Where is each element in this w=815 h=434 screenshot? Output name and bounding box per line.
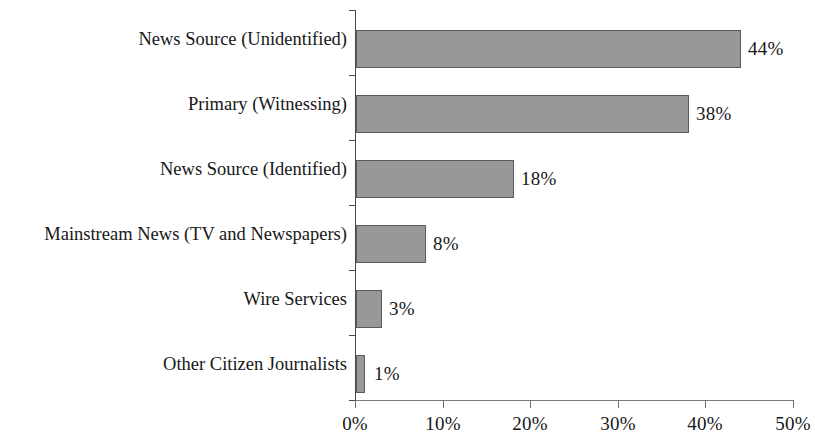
value-tick-20: [530, 400, 531, 408]
bar-band-1: 38%: [355, 95, 793, 133]
x-axis-tick-label-5: 50%: [775, 413, 810, 434]
bar-0[interactable]: [356, 30, 741, 68]
category-label-0: News Source (Unidentified): [138, 29, 347, 50]
bar-value-label-0: 44%: [748, 38, 783, 60]
bar-value-label-3: 8%: [433, 233, 459, 255]
category-label-5: Other Citizen Journalists: [163, 354, 347, 375]
x-axis-tick-label-1: 10%: [425, 413, 460, 434]
x-axis-tick-label-3: 30%: [600, 413, 635, 434]
bar-value-label-2: 18%: [521, 168, 556, 190]
value-tick-10: [443, 400, 444, 408]
bar-band-4: 3%: [355, 290, 793, 328]
category-axis-line: [355, 400, 794, 401]
category-label-1: Primary (Witnessing): [188, 94, 347, 115]
x-axis-tick-label-2: 20%: [512, 413, 547, 434]
x-axis-tick-label-0: 0%: [342, 413, 368, 434]
value-tick-40: [705, 400, 706, 408]
category-label-3: Mainstream News (TV and Newspapers): [44, 224, 347, 245]
category-tick-top: [349, 10, 356, 11]
value-tick-0: [355, 400, 356, 408]
value-tick-50: [793, 400, 794, 408]
bar-band-0: 44%: [355, 30, 793, 68]
bar-1[interactable]: [356, 95, 689, 133]
bar-chart: News Source (Unidentified) Primary (Witn…: [0, 0, 815, 434]
bar-2[interactable]: [356, 160, 514, 198]
category-tick-5: [349, 335, 356, 336]
category-label-4: Wire Services: [243, 289, 347, 310]
category-label-2: News Source (Identified): [160, 159, 347, 180]
bar-band-5: 1%: [355, 355, 793, 393]
category-tick-2: [349, 140, 356, 141]
category-tick-3: [349, 205, 356, 206]
bar-value-label-5: 1%: [374, 363, 400, 385]
bar-5[interactable]: [356, 355, 365, 393]
bar-band-3: 8%: [355, 225, 793, 263]
bar-band-2: 18%: [355, 160, 793, 198]
bar-value-label-1: 38%: [696, 103, 731, 125]
category-tick-1: [349, 75, 356, 76]
bar-3[interactable]: [356, 225, 426, 263]
plot-area: 44% 38% 18% 8% 3% 1% 0% 10% 20% 30% 40% …: [355, 10, 793, 400]
category-tick-4: [349, 270, 356, 271]
bar-4[interactable]: [356, 290, 382, 328]
bar-value-label-4: 3%: [389, 298, 415, 320]
x-axis-tick-label-4: 40%: [687, 413, 722, 434]
value-tick-30: [618, 400, 619, 408]
